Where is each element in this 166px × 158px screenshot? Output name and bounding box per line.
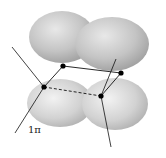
atom-1 [60,63,65,68]
atom-3 [41,84,46,89]
orbital-label: 1π [28,124,41,135]
atom-2 [118,70,123,75]
pi-orbital-diagram [0,0,166,158]
atom-4 [98,93,103,98]
upper-lobe-right [75,17,149,71]
upper-orbital-lobes [29,11,149,71]
lower-lobe-right [82,78,148,130]
